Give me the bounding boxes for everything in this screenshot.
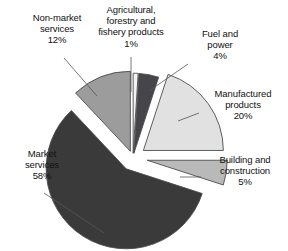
pie-label-market-services: Market services 58% xyxy=(4,148,80,182)
pie-chart-figure: Non-market services 12% Agricultural, fo… xyxy=(0,0,288,251)
pie-label-manufactured-products: Manufactured products 20% xyxy=(200,88,286,122)
pie-label-building-and-construction: Building and construction 5% xyxy=(202,154,288,188)
pie-label-fuel-and-power: Fuel and power 4% xyxy=(188,28,252,62)
pie-label-agricultural-forestry-fishery: Agricultural, forestry and fishery produ… xyxy=(84,4,178,49)
